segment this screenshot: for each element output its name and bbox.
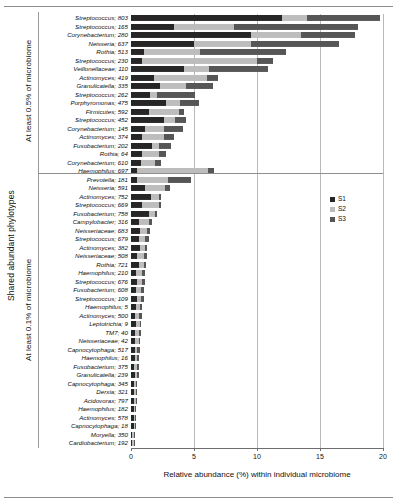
bar-rows: Streptococcus; 803Streptococcus; 165Cory… xyxy=(131,14,383,448)
category-label: Fusobacterium; 375 xyxy=(73,364,128,370)
bar-segment-S3 xyxy=(145,236,149,242)
tick-10 xyxy=(257,448,258,451)
category-label: Porphyromonas; 475 xyxy=(71,100,128,106)
bar-segment-S1 xyxy=(131,24,174,30)
stacked-bar xyxy=(131,92,195,98)
bar-segment-S3 xyxy=(157,92,195,98)
bar-row: TM7; 40 xyxy=(131,329,383,338)
category-label: Leptotrichia; 9 xyxy=(89,321,128,327)
bar-segment-S3 xyxy=(137,355,138,361)
stacked-bar xyxy=(131,24,358,30)
bar-row: Streptococcus; 230 xyxy=(131,57,383,66)
category-label: Haemophilus; 210 xyxy=(78,270,128,276)
bar-segment-S3 xyxy=(165,185,170,191)
category-label: Granulicatella; 239 xyxy=(76,372,128,378)
bar-segment-S1 xyxy=(131,194,151,200)
bar-segment-S1 xyxy=(131,15,282,21)
bar-segment-S1 xyxy=(131,92,150,98)
stacked-bar xyxy=(131,160,161,166)
bar-segment-S3 xyxy=(144,262,147,268)
tick-label-10: 10 xyxy=(253,453,261,460)
bar-row: Neisseria; 637 xyxy=(131,40,383,49)
bar-row: Neisseriaceae; 683 xyxy=(131,227,383,236)
bar-segment-S3 xyxy=(139,338,140,344)
bar-segment-S1 xyxy=(131,109,149,115)
bar-segment-S3 xyxy=(209,66,268,72)
stacked-bar xyxy=(131,83,213,89)
group-label-at-least-0-1-percent: At least 0.1% of microbiome xyxy=(24,176,33,444)
bar-segment-S1 xyxy=(131,117,164,123)
bar-row: Streptococcus; 669 xyxy=(131,201,383,210)
bar-segment-S1 xyxy=(131,41,194,47)
bar-segment-S3 xyxy=(135,423,136,429)
bar-segment-S3 xyxy=(257,58,273,64)
bar-segment-S3 xyxy=(159,143,172,149)
category-label: Haemophilus; 16 xyxy=(82,355,128,361)
bar-row: Acidovorax; 797 xyxy=(131,397,383,406)
tick-5 xyxy=(194,448,195,451)
stacked-bar xyxy=(131,100,199,106)
category-label: Streptococcus; 452 xyxy=(75,117,128,123)
group-separator-line xyxy=(38,173,383,174)
y-axis-group-divider xyxy=(38,12,39,448)
bar-segment-S2 xyxy=(282,15,307,21)
stacked-bar xyxy=(131,109,184,115)
bar-row: Haemophilus; 5 xyxy=(131,303,383,312)
tick-15 xyxy=(320,448,321,451)
category-label: Firmicutes; 592 xyxy=(86,109,128,115)
stacked-bar xyxy=(131,330,141,336)
stacked-bar xyxy=(131,398,137,404)
stacked-bar xyxy=(131,253,147,259)
bar-row: Streptococcus; 803 xyxy=(131,14,383,23)
category-label: Actinomyces; 374 xyxy=(79,134,128,140)
bar-segment-S2 xyxy=(251,32,301,38)
stacked-bar xyxy=(131,58,273,64)
bar-row: Actinomyces; 382 xyxy=(131,244,383,253)
bar-row: Cardiobacterium; 192 xyxy=(131,439,383,448)
bar-row: Streptococcus; 676 xyxy=(131,278,383,287)
stacked-bar xyxy=(131,279,145,285)
stacked-bar xyxy=(131,415,136,421)
tick-20 xyxy=(383,448,384,451)
bar-segment-S3 xyxy=(136,398,137,404)
category-label: Actinomyces; 382 xyxy=(79,245,128,251)
bar-segment-S3 xyxy=(142,279,145,285)
stacked-bar xyxy=(131,236,149,242)
bar-row: Streptococcus; 452 xyxy=(131,116,383,125)
bar-row: Firmicutes; 592 xyxy=(131,108,383,117)
category-label: Haemophilus; 182 xyxy=(78,406,128,412)
category-label: Campylobacter; 316 xyxy=(73,219,128,225)
bar-segment-S3 xyxy=(144,253,148,259)
bar-row: Actinomyces; 578 xyxy=(131,414,383,423)
plot-area: Streptococcus; 803Streptococcus; 165Cory… xyxy=(131,14,383,448)
category-label: Acidovorax; 797 xyxy=(84,398,128,404)
stacked-bar xyxy=(131,423,136,429)
bar-segment-S1 xyxy=(131,66,184,72)
bar-row: Haemophilus; 16 xyxy=(131,354,383,363)
stacked-bar xyxy=(131,134,174,140)
bar-row: Actinomyces; 752 xyxy=(131,193,383,202)
bar-row: Neisseriaceae; 42 xyxy=(131,337,383,346)
stacked-bar xyxy=(131,66,268,72)
stacked-bar xyxy=(131,185,170,191)
bar-segment-S3 xyxy=(137,347,140,353)
x-axis-title: Relative abundance (%) within individual… xyxy=(131,470,383,479)
bar-segment-S1 xyxy=(131,151,142,157)
bar-segment-S3 xyxy=(180,100,199,106)
tick-label-0: 0 xyxy=(129,453,133,460)
bar-segment-S3 xyxy=(137,372,138,378)
bar-segment-S1 xyxy=(131,202,142,208)
stacked-bar xyxy=(131,211,157,217)
category-label: Streptococcus; 165 xyxy=(75,24,128,30)
category-label: Rothia; 64 xyxy=(100,151,128,157)
stacked-bar xyxy=(131,270,145,276)
stacked-bar xyxy=(131,49,286,55)
bar-segment-S2 xyxy=(150,92,158,98)
bar-segment-S3 xyxy=(145,245,148,251)
bar-row: Rothia; 513 xyxy=(131,48,383,57)
stacked-bar xyxy=(131,304,142,310)
bar-segment-S3 xyxy=(142,270,145,276)
stacked-bar xyxy=(131,432,135,438)
bar-segment-S2 xyxy=(142,202,158,208)
bar-segment-S2 xyxy=(164,117,175,123)
